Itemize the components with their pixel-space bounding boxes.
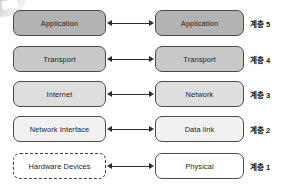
scan-artifact-highlight	[1, 0, 18, 10]
right-node-physical[interactable]: Physical	[155, 153, 244, 179]
layer-label-5: 계층 5	[250, 10, 270, 36]
layer-label-3: 계층 3	[250, 81, 270, 107]
arrow-head-right-icon	[149, 20, 154, 26]
diagram-row: Transport Transport 계층 4	[0, 46, 282, 74]
layer-label-1: 계층 1	[250, 153, 270, 179]
left-node-application[interactable]: Application	[13, 10, 106, 36]
arrow-head-right-icon	[149, 91, 154, 97]
arrow-shaft	[112, 94, 149, 95]
layer-label-4: 계층 4	[250, 46, 270, 72]
layer-label-2: 계층 2	[250, 116, 270, 142]
left-node-internet[interactable]: Internet	[13, 81, 106, 107]
double-arrow-icon	[107, 128, 154, 130]
right-node-application[interactable]: Application	[155, 10, 244, 36]
diagram-row: Internet Network 계층 3	[0, 81, 282, 109]
arrow-shaft	[112, 129, 149, 130]
right-node-data-link[interactable]: Data link	[155, 116, 244, 142]
left-node-network-interface[interactable]: Network Interface	[13, 116, 106, 142]
arrow-head-right-icon	[149, 56, 154, 62]
double-arrow-icon	[107, 93, 154, 95]
arrow-shaft	[112, 23, 149, 24]
diagram-row: Application Application 계층 5	[0, 10, 282, 38]
layer-comparison-diagram: Application Application 계층 5 Transport T…	[0, 0, 282, 194]
diagram-row: Hardware Devices Physical 계층 1	[0, 153, 282, 181]
double-arrow-icon	[107, 22, 154, 24]
double-arrow-icon	[107, 165, 154, 167]
left-node-hardware-devices[interactable]: Hardware Devices	[13, 153, 106, 179]
double-arrow-icon	[107, 58, 154, 60]
diagram-row: Network Interface Data link 계층 2	[0, 116, 282, 144]
left-node-transport[interactable]: Transport	[13, 46, 106, 72]
arrow-head-right-icon	[149, 163, 154, 169]
arrow-shaft	[112, 166, 149, 167]
right-node-transport[interactable]: Transport	[155, 46, 244, 72]
figure-caption	[0, 186, 282, 194]
arrow-head-right-icon	[149, 126, 154, 132]
right-node-network[interactable]: Network	[155, 81, 244, 107]
arrow-shaft	[112, 59, 149, 60]
